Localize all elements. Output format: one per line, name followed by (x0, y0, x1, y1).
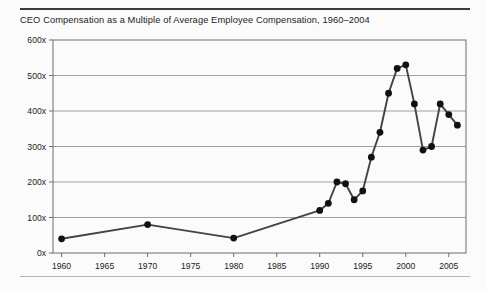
x-tick-label-2000: 2000 (396, 261, 415, 271)
series-line-ceo-pay-multiple (62, 65, 458, 239)
y-tick-label-100: 100x (27, 213, 46, 223)
data-point-1998 (385, 90, 392, 97)
plot-area: 0x100x200x300x400x500x600x 1960196519701… (0, 0, 486, 291)
data-point-2001 (411, 101, 418, 108)
data-point-1980 (230, 235, 237, 242)
data-point-1996 (368, 154, 375, 161)
data-point-1994 (351, 196, 358, 203)
y-tick-label-400: 400x (27, 106, 46, 116)
data-point-1999 (394, 65, 401, 72)
line-chart-svg: 0x100x200x300x400x500x600x 1960196519701… (0, 0, 486, 291)
axis-tick-marks (49, 40, 449, 257)
data-point-1990 (316, 207, 323, 214)
data-point-1991 (325, 200, 332, 207)
x-tick-label-1975: 1975 (181, 261, 200, 271)
data-point-2005 (445, 111, 452, 118)
data-point-1993 (342, 180, 349, 187)
data-point-1960 (58, 235, 65, 242)
y-tick-label-200: 200x (27, 177, 46, 187)
figure-container: CEO Compensation as a Multiple of Averag… (0, 0, 486, 291)
x-tick-label-1995: 1995 (353, 261, 372, 271)
data-point-1997 (377, 129, 384, 136)
x-axis-tick-labels: 1960196519701975198019851990199520002005 (52, 261, 459, 271)
x-tick-label-1985: 1985 (267, 261, 286, 271)
data-point-1970 (144, 221, 151, 228)
x-tick-label-1965: 1965 (95, 261, 114, 271)
data-point-2004 (437, 101, 444, 108)
series-markers-group (58, 61, 461, 242)
y-tick-label-500: 500x (27, 71, 46, 81)
data-point-2000 (402, 61, 409, 68)
x-tick-label-2005: 2005 (439, 261, 458, 271)
x-tick-label-1990: 1990 (310, 261, 329, 271)
data-point-1992 (334, 179, 341, 186)
bottom-divider-rule (20, 276, 470, 277)
x-tick-label-1980: 1980 (224, 261, 243, 271)
data-point-1995 (359, 187, 366, 194)
y-tick-label-300: 300x (27, 142, 46, 152)
x-tick-label-1960: 1960 (52, 261, 71, 271)
y-axis-tick-labels: 0x100x200x300x400x500x600x (27, 35, 46, 258)
x-tick-label-1970: 1970 (138, 261, 157, 271)
y-tick-label-0: 0x (37, 248, 47, 258)
data-point-2006 (454, 122, 461, 129)
y-tick-label-600: 600x (27, 35, 46, 45)
gridlines-group (53, 76, 466, 218)
data-point-2003 (428, 143, 435, 150)
data-point-2002 (420, 147, 427, 154)
